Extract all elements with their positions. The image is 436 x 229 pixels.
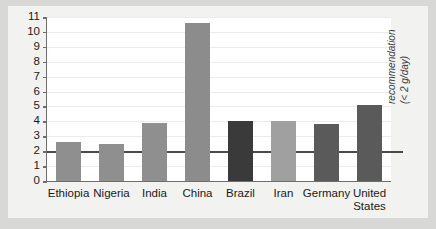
x-axis-label: India	[142, 187, 167, 200]
bar	[99, 144, 125, 181]
y-axis-tick-mark	[43, 106, 47, 108]
x-axis-label: China	[182, 187, 212, 200]
gridline	[47, 32, 391, 33]
y-axis-tick-label: 11	[28, 11, 40, 23]
gridline	[47, 17, 391, 18]
chart-canvas: 01234567891011 EthiopiaNigeriaIndiaChina…	[8, 6, 428, 218]
bar	[56, 142, 82, 181]
y-axis-tick-mark	[43, 121, 47, 123]
y-axis-tick-label: 5	[34, 101, 40, 113]
y-axis-tick-mark	[43, 62, 47, 64]
y-axis-tick-label: 1	[34, 160, 40, 172]
y-axis-tick-mark	[43, 17, 47, 19]
gridline	[47, 77, 391, 78]
x-axis-label: United States	[353, 187, 386, 213]
x-axis-label: Ethiopia	[48, 187, 90, 200]
gridline	[47, 62, 391, 63]
gridline	[47, 92, 391, 93]
bar	[271, 121, 297, 181]
x-axis-label: Brazil	[226, 187, 255, 200]
recommendation-annotation-line2: (< 2 g/day)	[400, 56, 410, 104]
x-axis-label: Nigeria	[93, 187, 129, 200]
bar	[357, 105, 383, 181]
bar	[314, 124, 340, 181]
x-axis-label: Iran	[274, 187, 294, 200]
gridline	[47, 136, 391, 137]
y-axis-tick-label: 6	[34, 86, 40, 98]
y-axis-tick-label: 10	[27, 26, 40, 38]
recommendation-annotation-line1: recommendation	[387, 30, 397, 104]
y-axis-tick-mark	[43, 77, 47, 79]
y-axis-tick-mark	[43, 47, 47, 49]
bar	[228, 121, 254, 181]
y-axis-tick-label: 3	[34, 131, 40, 143]
y-axis-tick-mark	[43, 136, 47, 138]
y-axis-tick-mark	[43, 181, 47, 183]
y-axis-tick-mark	[43, 166, 47, 168]
bar	[142, 123, 168, 181]
plot-area: 01234567891011 EthiopiaNigeriaIndiaChina…	[46, 17, 391, 182]
y-axis-tick-label: 7	[34, 71, 40, 83]
y-axis-tick-mark	[43, 92, 47, 94]
chart-figure: 01234567891011 EthiopiaNigeriaIndiaChina…	[0, 0, 436, 229]
y-axis-tick-label: 2	[34, 145, 40, 157]
gridline	[47, 47, 391, 48]
bar	[185, 23, 211, 181]
y-axis-tick-label: 9	[34, 41, 40, 53]
y-axis-tick-label: 8	[34, 56, 40, 68]
gridline	[47, 121, 391, 122]
y-axis-tick-mark	[43, 32, 47, 34]
x-axis-label: Germany	[303, 187, 350, 200]
gridline	[47, 106, 391, 107]
y-axis-tick-label: 4	[34, 116, 40, 128]
y-axis-tick-label: 0	[34, 175, 40, 187]
